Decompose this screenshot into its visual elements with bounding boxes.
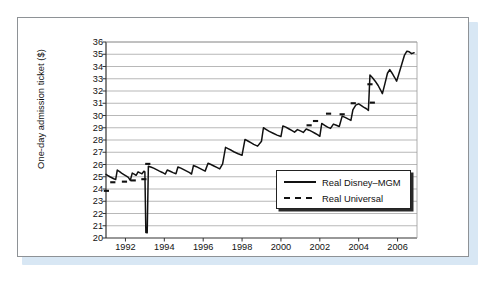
chart-legend: Real Disney–MGM Real Universal (276, 170, 411, 209)
x-tick-label: 1992 (105, 242, 145, 252)
legend-swatch-dashed-line (283, 193, 317, 203)
x-tick-label: 2004 (339, 242, 379, 252)
legend-entry-universal: Real Universal (283, 191, 383, 205)
x-tick-label: 2000 (261, 242, 301, 252)
legend-label-universal: Real Universal (322, 193, 383, 204)
figure-root: One-day admission ticket ($) 36353433323… (0, 0, 489, 288)
plot-area: One-day admission ticket ($) 36353433323… (0, 0, 489, 288)
x-tick-label: 2006 (378, 242, 418, 252)
legend-label-disney-mgm: Real Disney–MGM (322, 177, 401, 188)
legend-entry-disney-mgm: Real Disney–MGM (283, 175, 401, 189)
x-tick-label: 1994 (144, 242, 184, 252)
x-tick-label: 2002 (300, 242, 340, 252)
x-tick-label: 1996 (183, 242, 223, 252)
x-tick-label: 1998 (222, 242, 262, 252)
legend-swatch-solid-line (283, 177, 317, 187)
